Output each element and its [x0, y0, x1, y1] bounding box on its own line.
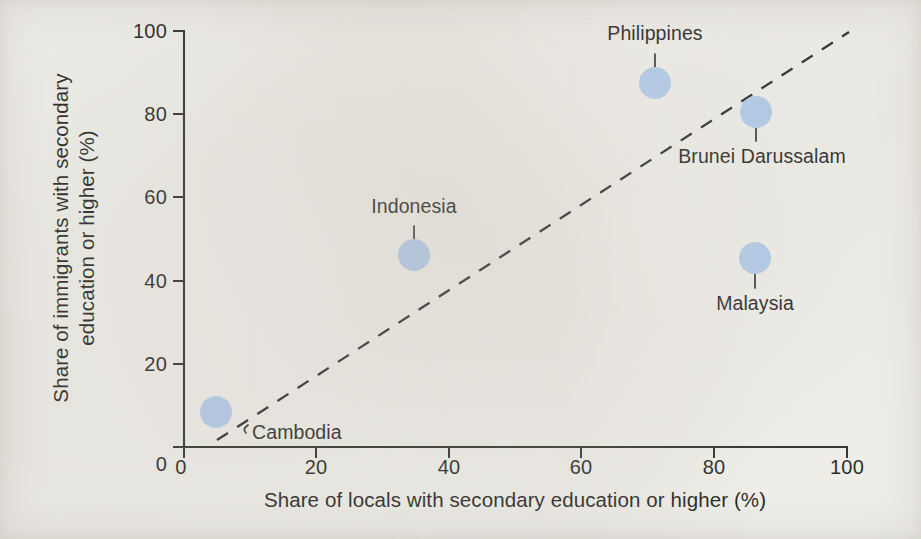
x-tick-label-40: 40 [438, 456, 461, 479]
data-point-philippines[interactable] [639, 67, 671, 99]
data-point-cambodia[interactable] [200, 396, 232, 428]
data-point-malaysia[interactable] [739, 242, 771, 274]
data-point-indonesia[interactable] [398, 239, 430, 271]
y-axis-title-line-1: Share of immigrants with secondary [48, 73, 74, 402]
brunei-label-line-2: Darussalam [741, 145, 846, 167]
x-axis-title: Share of locals with secondary education… [264, 488, 766, 512]
y-axis-title: Share of immigrants with secondary educa… [48, 73, 100, 402]
brunei-label-line-1: Brunei [678, 145, 735, 167]
y-tick-label-20: 20 [144, 353, 167, 376]
point-label-malaysia: Malaysia [716, 292, 794, 315]
x-tick-label-100: 100 [830, 456, 864, 479]
x-tick-label-20: 20 [305, 456, 328, 479]
x-tick-label-60: 60 [570, 456, 593, 479]
x-tick-label-0: 0 [175, 456, 186, 479]
leader-line-cambodia [244, 425, 248, 433]
y-tick-label-40: 40 [144, 270, 167, 293]
point-label-indonesia: Indonesia [371, 195, 456, 218]
data-point-brunei-darussalam[interactable] [740, 96, 772, 128]
y-tick-label-80: 80 [144, 103, 167, 126]
x-tick-label-80: 80 [703, 456, 726, 479]
point-label-cambodia: Cambodia [252, 421, 342, 444]
y-tick-label-100: 100 [133, 20, 167, 43]
y-axis-ticks [173, 31, 184, 447]
point-label-philippines: Philippines [607, 22, 702, 45]
scatter-chart: 0 20 40 60 80 100 0 20 40 60 80 100 Phil… [0, 0, 921, 539]
y-axis-title-line-2: education or higher (%) [74, 73, 100, 402]
plot-canvas [0, 0, 921, 539]
point-label-brunei-darussalam: Brunei Darussalam [678, 145, 846, 168]
y-tick-label-60: 60 [144, 186, 167, 209]
parity-reference-line [217, 32, 849, 440]
x-axis-ticks [184, 447, 847, 458]
y-tick-label-0: 0 [156, 453, 167, 476]
